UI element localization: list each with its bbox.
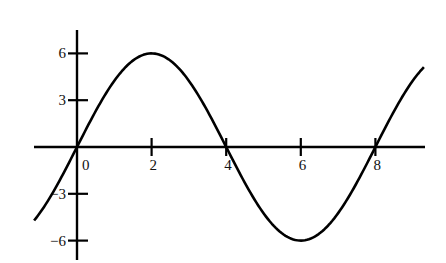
x-tick-label: 2 xyxy=(150,157,158,173)
y-tick-label: 3 xyxy=(59,92,67,108)
y-tick-label: 6 xyxy=(59,45,67,61)
x-tick-label: 6 xyxy=(299,157,307,173)
x-tick-label: 0 xyxy=(82,157,90,173)
y-tick-label: −6 xyxy=(50,233,66,249)
x-tick-label: 8 xyxy=(373,157,381,173)
sine-chart: 02468 63−3−6 xyxy=(0,0,446,263)
x-tick-label: 4 xyxy=(224,157,232,173)
